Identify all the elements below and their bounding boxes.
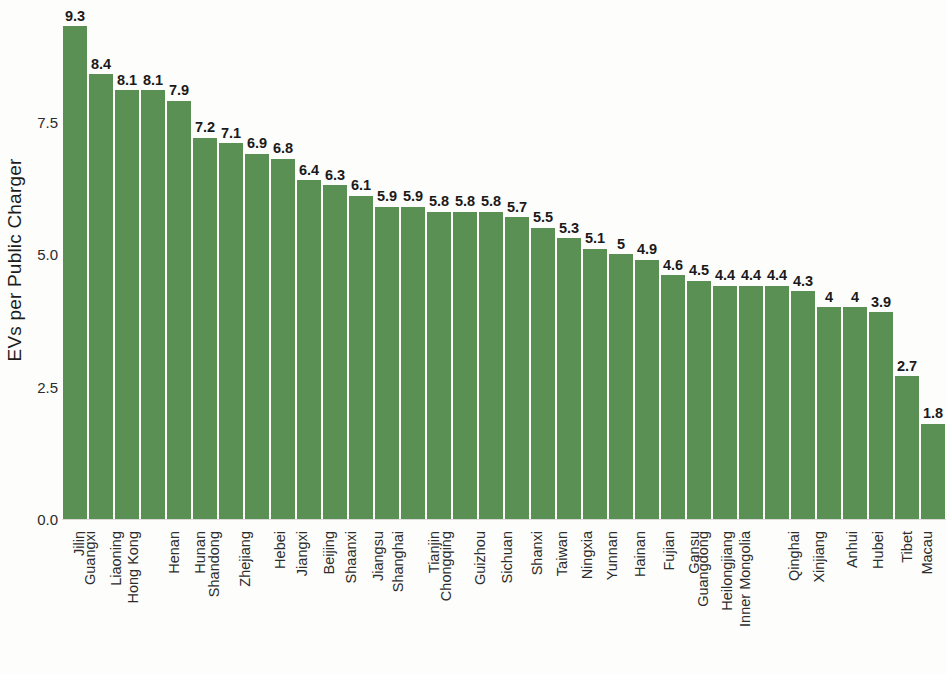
bar-slot[interactable]: 8.1 [140,0,166,519]
x-tick-label: Hubei [870,531,886,569]
bar[interactable] [63,26,86,519]
x-tick-label: Zhejiang [237,531,253,587]
x-tick-label: Qinghai [786,531,802,581]
bar-slot[interactable]: 4.5 [686,0,712,519]
x-tick-label: Shanxi [529,531,545,575]
y-tick-label: 7.5 [18,113,58,130]
bar-slot[interactable]: 6.4 [296,0,322,519]
bar-slot[interactable]: 1.8 [920,0,946,519]
x-tick-label: Guizhou [472,531,488,585]
bar-slot[interactable]: 5.8 [426,0,452,519]
bar[interactable] [661,275,684,519]
bar-slot[interactable]: 6.1 [348,0,374,519]
x-tick-label: Shanghai [390,531,406,592]
bar-slot[interactable]: 5 [608,0,634,519]
bar[interactable] [635,260,658,520]
bar[interactable] [687,281,710,519]
bar[interactable] [271,159,294,519]
bar[interactable] [557,238,580,519]
bar[interactable] [869,312,892,519]
bar[interactable] [921,424,944,519]
bar[interactable] [713,286,736,519]
x-tick-label: Jiangsu [370,531,386,581]
bar[interactable] [895,376,918,519]
bar[interactable] [739,286,762,519]
x-tick-slot: Hong Kong [140,523,166,673]
bar[interactable] [401,207,424,519]
x-tick-slot: Jiangxi [296,523,322,673]
bar-slot[interactable]: 4 [816,0,842,519]
bar-value-label: 5.8 [429,194,449,209]
bar-slot[interactable]: 5.8 [452,0,478,519]
x-tick-slot: Hainan [634,523,660,673]
x-tick-slot: Shanxi [530,523,556,673]
bar[interactable] [765,286,788,519]
x-tick-label: Guangdong [695,531,711,607]
bar-slot[interactable]: 5.5 [530,0,556,519]
bar[interactable] [141,90,164,519]
bar[interactable] [89,74,112,519]
bar[interactable] [427,212,450,519]
bar-slot[interactable]: 8.4 [88,0,114,519]
bar[interactable] [843,307,866,519]
bar-slot[interactable]: 6.8 [270,0,296,519]
bar[interactable] [193,138,216,519]
bar[interactable] [505,217,528,519]
bar-slot[interactable]: 5.7 [504,0,530,519]
bar-slot[interactable]: 4.3 [790,0,816,519]
bar-slot[interactable]: 4.4 [738,0,764,519]
bar-slot[interactable]: 9.3 [62,0,88,519]
bar[interactable] [609,254,632,519]
x-tick-label: Hainan [632,531,648,577]
bar-slot[interactable]: 7.1 [218,0,244,519]
bar-slot[interactable]: 8.1 [114,0,140,519]
bar-slot[interactable]: 5.3 [556,0,582,519]
bar-slot[interactable]: 5.9 [374,0,400,519]
y-axis-tick-labels: 0.02.55.07.5 [14,0,58,674]
bar[interactable] [323,185,346,519]
bar-value-label: 7.1 [221,126,241,141]
bar[interactable] [167,101,190,519]
bar-slot[interactable]: 4.4 [764,0,790,519]
bar[interactable] [479,212,502,519]
bar[interactable] [791,291,814,519]
bar[interactable] [297,180,320,519]
bar-slot[interactable]: 5.1 [582,0,608,519]
x-tick-label: Liaoning [108,531,124,586]
bar[interactable] [817,307,840,519]
bar-slot[interactable]: 6.3 [322,0,348,519]
bar-value-label: 4.4 [715,268,735,283]
bar[interactable] [115,90,138,519]
bar-value-label: 1.8 [923,406,943,421]
bar[interactable] [245,154,268,519]
bar-value-label: 4.5 [689,263,709,278]
bar[interactable] [583,249,606,519]
bar-slot[interactable]: 3.9 [868,0,894,519]
bar-slot[interactable]: 4.6 [660,0,686,519]
bar-value-label: 6.9 [247,136,267,151]
x-tick-slot: Macau [920,523,946,673]
bar-slot[interactable]: 2.7 [894,0,920,519]
x-tick-label: Xinjiang [811,531,827,583]
bar[interactable] [453,212,476,519]
bar-slot[interactable]: 5.9 [400,0,426,519]
bar-slot[interactable]: 7.9 [166,0,192,519]
bar-slot[interactable]: 4.4 [712,0,738,519]
bar-slot[interactable]: 5.8 [478,0,504,519]
bar-value-label: 6.4 [299,163,319,178]
bar-slot[interactable]: 6.9 [244,0,270,519]
bar[interactable] [219,143,242,519]
bar[interactable] [349,196,372,519]
x-tick-label: Taiwan [554,531,570,576]
bar[interactable] [375,207,398,519]
x-tick-label: Heilongjiang [719,531,735,611]
bar-slot[interactable]: 4.9 [634,0,660,519]
x-tick-slot: Hubei [868,523,894,673]
bar-value-label: 7.2 [195,120,215,135]
bar-slot[interactable]: 4 [842,0,868,519]
x-tick-label: Macau [919,531,935,575]
x-tick-label: Hebei [272,531,288,569]
bar-slot[interactable]: 7.2 [192,0,218,519]
bar[interactable] [531,228,554,519]
bar-value-label: 5.9 [377,189,397,204]
